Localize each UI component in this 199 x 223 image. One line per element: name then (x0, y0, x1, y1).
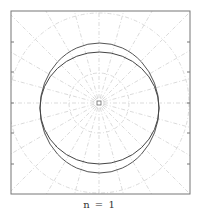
inner-curve (40, 52, 159, 164)
polar-plot (0, 0, 199, 223)
chart-caption: n = 1 (0, 199, 199, 210)
polar-grid (0, 0, 199, 223)
curves (40, 43, 159, 173)
origin-marker (97, 101, 101, 105)
plot-frame (11, 11, 190, 194)
outer-curve (40, 43, 159, 173)
